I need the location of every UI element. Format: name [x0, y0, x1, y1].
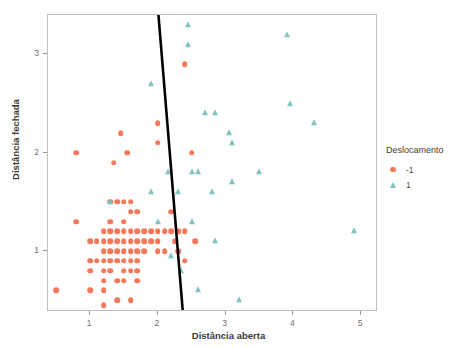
- data-point-neg1: [124, 150, 130, 156]
- data-point-1: [107, 198, 113, 204]
- data-point-neg1: [128, 297, 134, 303]
- data-point-1: [165, 169, 171, 175]
- data-point-neg1: [101, 258, 107, 264]
- legend-item-label: 1: [406, 180, 411, 190]
- y-tick-mark: [43, 53, 47, 54]
- legend-triangle-icon: [386, 178, 400, 192]
- x-tick-mark: [89, 311, 90, 315]
- data-point-neg1: [175, 229, 181, 235]
- data-point-neg1: [101, 238, 107, 244]
- data-point-1: [351, 228, 357, 234]
- y-tick-mark: [43, 152, 47, 153]
- data-point-neg1: [128, 258, 134, 264]
- data-point-neg1: [101, 229, 107, 235]
- data-point-1: [195, 169, 201, 175]
- data-point-neg1: [128, 238, 134, 244]
- data-point-1: [209, 188, 215, 194]
- data-point-neg1: [87, 258, 93, 264]
- x-tick-mark: [292, 311, 293, 315]
- data-point-neg1: [192, 238, 198, 244]
- data-point-neg1: [128, 209, 134, 215]
- data-point-neg1: [121, 229, 127, 235]
- y-tick-mark: [43, 250, 47, 251]
- x-tick-label: 2: [154, 318, 159, 328]
- data-point-neg1: [101, 302, 107, 308]
- data-point-neg1: [141, 229, 147, 235]
- data-point-neg1: [162, 229, 168, 235]
- data-point-neg1: [121, 268, 127, 274]
- data-point-neg1: [101, 288, 107, 294]
- data-point-neg1: [135, 278, 141, 284]
- data-point-neg1: [114, 229, 120, 235]
- plot-panel: [47, 14, 377, 311]
- data-point-neg1: [135, 268, 141, 274]
- data-point-neg1: [114, 248, 120, 254]
- data-point-1: [311, 119, 317, 125]
- data-point-1: [155, 218, 161, 224]
- data-point-neg1: [162, 248, 168, 254]
- x-tick-mark: [225, 311, 226, 315]
- data-point-neg1: [121, 199, 127, 205]
- data-point-neg1: [141, 248, 147, 254]
- data-point-1: [189, 218, 195, 224]
- data-point-neg1: [101, 268, 107, 274]
- x-tick-label: 1: [87, 318, 92, 328]
- data-point-neg1: [108, 219, 114, 225]
- data-point-neg1: [135, 229, 141, 235]
- data-point-neg1: [155, 238, 161, 244]
- data-point-neg1: [101, 278, 107, 284]
- data-point-neg1: [182, 258, 188, 264]
- data-point-neg1: [128, 229, 134, 235]
- data-point-1: [284, 31, 290, 37]
- legend-item[interactable]: -1: [386, 162, 444, 177]
- data-point-1: [185, 21, 191, 27]
- data-points-layer: [48, 15, 376, 310]
- data-point-neg1: [148, 229, 154, 235]
- data-point-neg1: [74, 150, 80, 156]
- x-tick-label: 3: [222, 318, 227, 328]
- data-point-neg1: [53, 288, 59, 294]
- data-point-neg1: [141, 238, 147, 244]
- data-point-neg1: [155, 229, 161, 235]
- data-point-neg1: [108, 258, 114, 264]
- data-point-neg1: [114, 258, 120, 264]
- legend-title: Deslocamento: [386, 145, 444, 155]
- data-point-1: [236, 296, 242, 302]
- data-point-neg1: [155, 120, 161, 126]
- data-point-neg1: [121, 258, 127, 264]
- data-point-neg1: [128, 199, 134, 205]
- data-point-neg1: [148, 238, 154, 244]
- data-point-neg1: [182, 61, 188, 67]
- legend-item[interactable]: 1: [386, 177, 444, 192]
- data-point-neg1: [189, 150, 195, 156]
- data-point-1: [226, 129, 232, 135]
- data-point-1: [202, 110, 208, 116]
- data-point-1: [148, 80, 154, 86]
- x-tick-label: 5: [358, 318, 363, 328]
- data-point-neg1: [121, 278, 127, 284]
- data-point-neg1: [114, 297, 120, 303]
- data-point-neg1: [108, 229, 114, 235]
- data-point-1: [168, 252, 174, 258]
- legend-item-label: -1: [406, 165, 414, 175]
- x-axis-title: Distância aberta: [0, 330, 457, 341]
- data-point-neg1: [114, 278, 120, 284]
- x-tick-mark: [157, 311, 158, 315]
- data-point-neg1: [108, 238, 114, 244]
- data-point-1: [212, 237, 218, 243]
- data-point-neg1: [169, 209, 175, 215]
- data-point-neg1: [135, 238, 141, 244]
- data-point-neg1: [121, 219, 127, 225]
- data-point-1: [229, 139, 235, 145]
- data-point-neg1: [121, 248, 127, 254]
- data-point-1: [185, 41, 191, 47]
- data-point-neg1: [118, 130, 124, 136]
- data-point-neg1: [128, 268, 134, 274]
- data-point-neg1: [135, 258, 141, 264]
- data-point-neg1: [74, 219, 80, 225]
- data-point-neg1: [135, 248, 141, 254]
- data-point-neg1: [155, 248, 161, 254]
- legend-items: -11: [386, 162, 444, 192]
- data-point-1: [189, 169, 195, 175]
- data-point-neg1: [111, 160, 117, 166]
